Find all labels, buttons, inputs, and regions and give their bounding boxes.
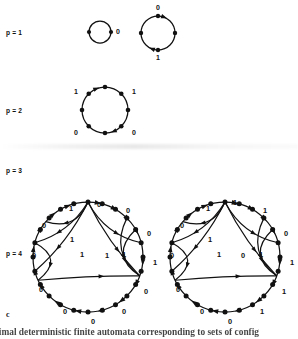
transition-label: 0 xyxy=(200,307,204,316)
transition-arc xyxy=(175,276,277,280)
transition-label: 0 xyxy=(284,229,288,238)
transition-arc xyxy=(225,202,277,276)
state-node xyxy=(237,201,242,206)
state-node xyxy=(278,255,283,260)
transition-label: 1 xyxy=(206,204,210,213)
transition-label: 1 xyxy=(282,287,286,296)
caption-text: inimal deterministic finite automata cor… xyxy=(0,327,259,337)
edge-arrowhead xyxy=(236,274,242,278)
transition-label: 1 xyxy=(259,250,263,259)
state-node xyxy=(195,207,200,212)
transition-label: 0 xyxy=(241,251,245,260)
caption: inimal deterministic finite automata cor… xyxy=(0,327,298,339)
state-node xyxy=(208,308,213,313)
transition-label: 1 xyxy=(260,307,264,316)
edge-arrowhead xyxy=(186,262,190,268)
transition-label: 0 xyxy=(170,251,174,260)
state-node xyxy=(276,269,281,274)
edge-arrowhead xyxy=(250,230,256,235)
transition-label: 1 xyxy=(290,258,294,267)
state-node xyxy=(261,293,266,298)
transition-label: 0 xyxy=(176,285,180,294)
diagram-p4-right: 1110011010101010 xyxy=(0,0,298,339)
transition-arc xyxy=(172,202,225,271)
transition-label: 1 xyxy=(233,198,237,207)
transition-label: 0 xyxy=(180,221,184,230)
state-node xyxy=(223,310,228,315)
transition-label: 0 xyxy=(228,317,232,326)
state-node xyxy=(250,302,255,307)
transition-arc xyxy=(172,243,188,280)
figure-panel: p = 1 p = 2 p = 3 p = 4 0 01 1100 010001… xyxy=(0,0,298,339)
transition-label: 1 xyxy=(217,250,221,259)
transition-label: 1 xyxy=(208,235,212,244)
edge-arrowhead xyxy=(193,229,199,234)
panel-letter: c xyxy=(6,310,10,319)
transition-label: 1 xyxy=(263,206,267,215)
state-node xyxy=(184,293,189,298)
